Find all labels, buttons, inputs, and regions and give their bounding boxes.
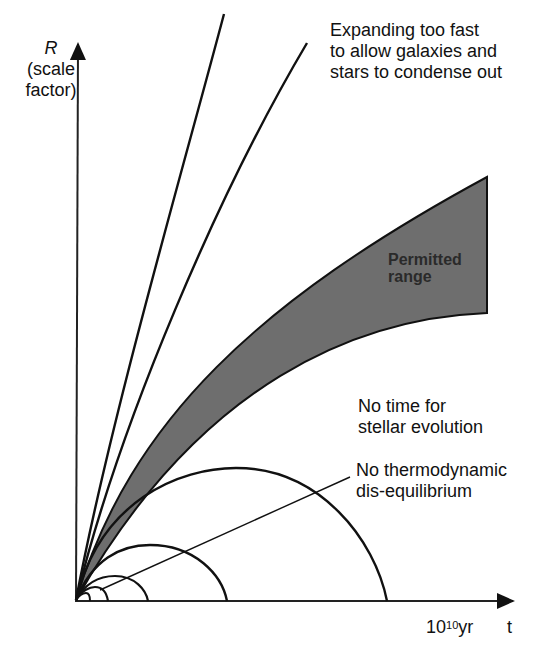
x-axis-symbol: t — [507, 617, 512, 638]
annotation-stellar: No time for stellar evolution — [358, 396, 483, 438]
annotation-thermo: No thermodynamic dis-equilibrium — [356, 460, 507, 502]
y-axis-label: R (scale factor) — [18, 38, 84, 101]
x-axis-unit: 1010yr — [426, 617, 473, 638]
annotation-permitted-range: Permitted range — [388, 251, 462, 285]
curve-too-fast-steep — [76, 14, 224, 600]
y-axis-symbol: R — [18, 38, 84, 59]
annotation-too-fast: Expanding too fast to allow galaxies and… — [330, 20, 502, 83]
permitted-range-band — [76, 177, 487, 600]
y-axis — [76, 44, 78, 601]
